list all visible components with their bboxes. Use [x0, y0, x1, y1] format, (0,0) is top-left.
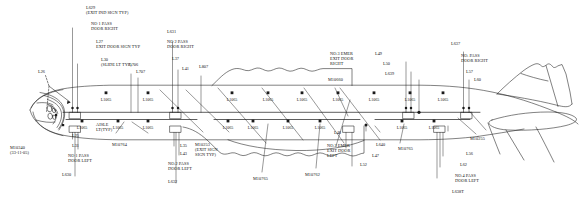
lamp-label-l1065-4: L1065 [293, 98, 311, 103]
callout-L50-15: L50 [383, 62, 390, 67]
callout-L629-0: L629 (EXIT IND SIGN TYP) [86, 6, 128, 16]
callout-no3-emer-exit-door-left-14: NO.3 EMER EXIT DOOR LEFT [327, 144, 350, 158]
lamp-label-l1065-5: L1065 [329, 98, 347, 103]
callout-L27-2: L27 EXIT DOOR SIGN TYP [96, 40, 140, 50]
callout-L640-18: L640 [376, 143, 385, 148]
lamp-label-l1065-2: L1065 [223, 98, 241, 103]
callout-L41-8: L41 [182, 67, 189, 72]
callout-M10765-left-12: M10765 [253, 177, 268, 182]
lamp-label-l1065-15: L1065 [311, 126, 329, 131]
callout-M10660-13: M10660 [328, 78, 343, 83]
lamp-label-l1065-17: L1065 [425, 126, 443, 131]
lamp-label-l1065-10: L1065 [109, 126, 127, 131]
callout-L52-16: L52 [360, 163, 367, 168]
callout-L637-17: L637 [451, 42, 460, 47]
callout-no1-pass-door-left-3: NO 1 PASS DOOR LEFT [68, 154, 92, 164]
lamp-label-l1065-14: L1065 [279, 126, 297, 131]
callout-L706-10: L706 [129, 63, 138, 68]
callout-L25-1: L25 [72, 134, 79, 139]
lamp-label-l1065-1: L1065 [139, 98, 157, 103]
callout-no1-pass-door-right-1: NO 1 PASS DOOR RIGHT [91, 22, 118, 32]
lamp-label-l1065-0: L1065 [97, 98, 115, 103]
callout-no4-pass-door-left-22: NO.4 PASS DOOR LEFT [455, 174, 479, 184]
lamp-label-l1065-7: L1065 [401, 98, 419, 103]
callout-L62-21: L62 [460, 163, 467, 168]
callout-L37-7: L37 [172, 57, 179, 62]
lamp-markers [55, 91, 444, 126]
lamp-label-l1065-6: L1065 [365, 98, 383, 103]
callout-L35-7: L35 [180, 144, 187, 149]
callout-L26-4: L26 [38, 70, 45, 75]
callout-L49-14: L49 [375, 52, 382, 57]
callout-L707-11: L707 [136, 70, 145, 75]
callout-L57-19: L57 [466, 70, 473, 75]
callout-no3-emer-exit-door-right-12: NO.3 EMER EXIT DOOR RIGHT [330, 52, 353, 66]
callout-L632-10: L632 [168, 180, 177, 185]
lamp-label-l1065-3: L1065 [259, 98, 277, 103]
lamp-label-l1065-12: L1065 [219, 126, 237, 131]
diagram-canvas: L629 (EXIT IND SIGN TYP)NO 1 PASS DOOR R… [0, 0, 588, 202]
lamp-label-l1065-13: L1065 [244, 126, 262, 131]
callout-no2-pass-door-right-6: NO 2 PASS DOOR RIGHT [167, 40, 194, 50]
door-markers-lower [70, 124, 449, 184]
callout-L630-4: L630 [62, 173, 71, 178]
cabin-floor-lines [63, 112, 480, 119]
callout-M10762-13: M10762 [305, 173, 320, 178]
callout-L807-9: L807 [199, 65, 208, 70]
lamp-label-l1065-9: L1065 [73, 126, 91, 131]
callout-M10765-right-19: M10765 [398, 147, 413, 152]
callout-L56-20: L56 [466, 152, 473, 157]
callout-no-pass-door-right-18: NO. PASS DOOR RIGHT [461, 54, 488, 64]
callout-L43-8: L43 [180, 152, 187, 157]
nose-cockpit-detail [31, 76, 71, 136]
lamp-label-l1065-16: L1065 [393, 126, 411, 131]
callout-L48-15: L48 [334, 131, 341, 136]
callout-L60-20: L60 [474, 78, 481, 83]
callout-M10340-0: M10340 (33-11-05) [10, 146, 29, 156]
callout-M10253-11: M10253 (EXIT SIGN SIGN TYP) [195, 143, 218, 157]
callout-M10255-24: M10255 [470, 137, 485, 142]
lamp-label-l1065-11: L1065 [139, 126, 157, 131]
callout-L47-17: L47 [372, 154, 379, 159]
callout-L638T-23: L638T [452, 190, 464, 195]
callout-L639-16: L639 [385, 72, 394, 77]
lamp-label-l1065-8: L1065 [434, 98, 452, 103]
callout-L31-2: L31 [72, 144, 79, 149]
tail-assembly [478, 64, 578, 162]
callout-L631-5: L631 [167, 30, 176, 35]
callout-L30-3: L30 (SLIDE LT TYP) [101, 58, 132, 68]
callout-M10764-6: M10764 [112, 143, 127, 148]
callout-no2-pass-door-left-9: NO.2 PASS DOOR LEFT [168, 162, 192, 172]
